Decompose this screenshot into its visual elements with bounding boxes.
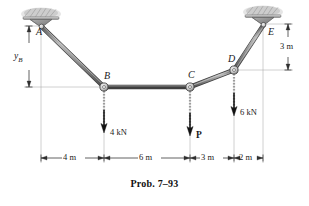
dimension-label-3m: 3 m — [201, 153, 214, 162]
dimension-label-yb: yB — [14, 52, 23, 64]
dimension-label-right-3m: 3 m — [280, 42, 293, 51]
dimension-label-4m: 4 m — [63, 153, 76, 162]
force-arrow-P — [187, 113, 193, 136]
dimension-label-6m: 6 m — [139, 153, 152, 162]
figure-caption: Prob. 7–93 — [0, 178, 309, 189]
cable-segment-BC — [104, 86, 190, 87]
support-left-ceiling-pad — [21, 8, 61, 21]
cable-segment-AB — [42, 26, 105, 87]
yb-subscript: B — [18, 56, 22, 64]
dimension-label-2m: 2 m — [239, 153, 252, 162]
force-label-4kN: 4 kN — [110, 128, 127, 137]
support-right-ceiling-pad — [243, 6, 283, 19]
node-label-E: E — [268, 27, 274, 37]
node-label-D: D — [228, 54, 235, 64]
pin-joint-E — [261, 22, 266, 27]
pin-joint-C — [186, 83, 194, 91]
force-label-6kN: 6 kN — [240, 108, 257, 117]
node-label-C: C — [188, 70, 195, 80]
pin-joint-B — [100, 83, 108, 91]
pin-joint-D — [230, 66, 238, 74]
vertical-dimension-yb — [26, 26, 33, 87]
force-arrow-6kN — [231, 93, 237, 116]
node-label-B: B — [104, 71, 110, 81]
force-arrow-4kN — [101, 110, 107, 133]
cable-structure-diagram — [0, 0, 309, 206]
cable-segment-DE — [234, 25, 264, 70]
force-label-P: P — [196, 131, 202, 141]
cable-segment-CD — [190, 69, 234, 87]
node-label-A: A — [36, 27, 42, 37]
